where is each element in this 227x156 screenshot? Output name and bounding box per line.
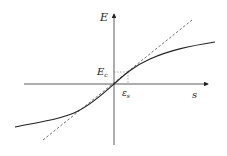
es-marker-label: εs — [122, 88, 130, 99]
tangent-line — [43, 20, 192, 140]
response-curve — [15, 42, 215, 127]
diagram-canvas: E s Ec εs — [0, 0, 227, 156]
ec-marker-label: Ec — [96, 66, 108, 78]
x-axis-label: s — [192, 89, 197, 100]
y-axis-label: E — [99, 11, 108, 24]
